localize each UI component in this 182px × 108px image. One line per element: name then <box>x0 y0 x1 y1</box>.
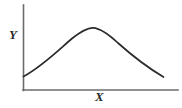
figure-container: Y X <box>0 0 182 108</box>
y-axis-label: Y <box>9 28 17 41</box>
x-axis-label: X <box>95 90 104 103</box>
data-curve <box>24 28 164 77</box>
curve-plot <box>0 0 182 108</box>
